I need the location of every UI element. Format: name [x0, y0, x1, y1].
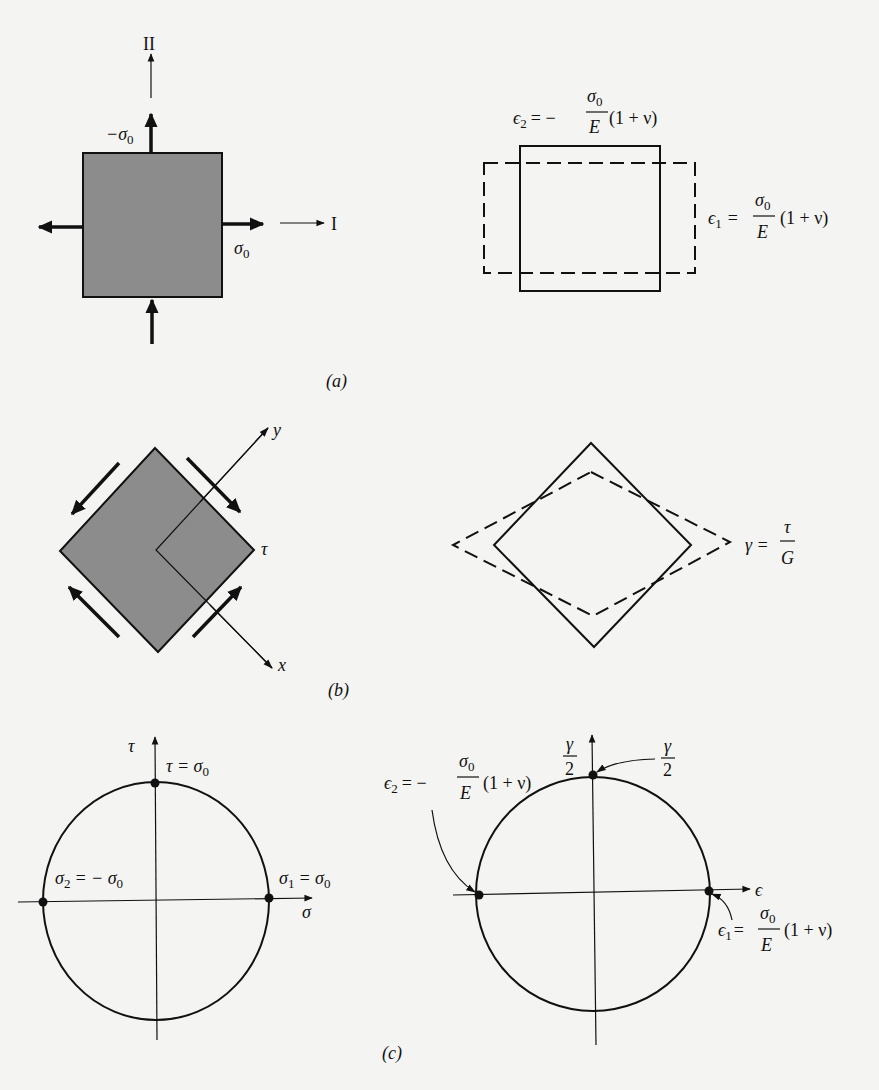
gamma-half-axis-num: γ [566, 734, 574, 754]
leader-epsilon-2 [432, 810, 475, 892]
sigma-axis-label: σ [302, 902, 312, 922]
point-sigma-1 [265, 894, 274, 903]
svg-text:(1 + ν): (1 + ν) [780, 208, 828, 229]
svg-text:(1 + ν): (1 + ν) [483, 773, 531, 794]
gamma-half-axis-den: 2 [565, 759, 574, 779]
axis-y-label: y [271, 420, 281, 440]
svg-text:σ0: σ0 [755, 190, 770, 213]
point-tau-max [151, 779, 160, 788]
strain-2-equation: ϵ2= − σ0 E (1 + ν) [513, 86, 657, 137]
deformed-rectangle-dashed [484, 163, 695, 273]
svg-text:ϵ2= −: ϵ2= − [384, 773, 427, 796]
stressed-element-square [83, 153, 222, 297]
epsilon-2-label: ϵ2= − σ0 E (1 + ν) [384, 751, 531, 803]
sigma-1-label: σ1= σ0 [279, 868, 330, 891]
shear-label: τ [261, 539, 268, 559]
svg-text:σ0: σ0 [587, 86, 602, 109]
stress-strain-figure: II I −σ0 σ0 ϵ2= − σ0 [0, 0, 879, 1090]
svg-text:(1 + ν): (1 + ν) [784, 920, 832, 941]
axis-x-label: x [277, 655, 286, 675]
tau-axis-label: τ [128, 736, 135, 756]
leader-gamma-half [597, 759, 655, 772]
panel-b: y x τ γ = τ G (b) [60, 420, 795, 701]
axis-y-arrow [200, 428, 268, 502]
axis-ii-label: II [143, 34, 155, 54]
mohr-stress-circle: τ σ τ = σ0 σ2= − σ0 σ1= σ0 [18, 736, 330, 1040]
axis-i-label: I [331, 214, 337, 234]
strain-1-equation: ϵ1= σ0 E (1 + ν) [708, 190, 828, 242]
axis-x-arrow [210, 605, 272, 668]
gamma-half-axis [592, 735, 596, 1045]
caption-a: (a) [326, 371, 347, 392]
svg-text:ϵ1=: ϵ1= [718, 920, 744, 943]
svg-text:ϵ2= −: ϵ2= − [513, 108, 556, 131]
mohr-strain-circle: γ 2 ϵ γ 2 ϵ2= − σ0 E (1 + ν) [384, 734, 832, 1045]
svg-text:(1 + ν): (1 + ν) [609, 108, 657, 129]
svg-text:σ0: σ0 [760, 903, 775, 926]
caption-b: (b) [328, 680, 349, 701]
panel-a: II I −σ0 σ0 ϵ2= − σ0 [39, 34, 828, 392]
point-epsilon-2 [475, 891, 484, 900]
svg-text:σ0: σ0 [459, 751, 474, 774]
panel-c: τ σ τ = σ0 σ2= − σ0 σ1= σ0 γ 2 [18, 734, 832, 1064]
svg-text:E: E [459, 783, 471, 803]
tau-max-label: τ = σ0 [166, 756, 209, 779]
point-gamma-half [589, 771, 598, 780]
stress-right-label: σ0 [234, 238, 249, 261]
caption-c: (c) [382, 1043, 402, 1064]
stress-top-label: −σ0 [106, 124, 134, 147]
point-sigma-2 [39, 898, 48, 907]
epsilon-1-label: ϵ1= σ0 E (1 + ν) [718, 903, 832, 955]
leader-epsilon-1 [712, 894, 732, 920]
epsilon-axis-label: ϵ [755, 880, 763, 900]
svg-text:γ =: γ = [745, 535, 769, 555]
svg-text:τ: τ [784, 517, 791, 537]
original-square-solid [520, 146, 660, 291]
gamma-half-point-den: 2 [663, 760, 672, 780]
svg-text:E: E [756, 222, 768, 242]
svg-text:G: G [781, 548, 794, 568]
svg-text:E: E [588, 117, 600, 137]
sigma-2-label: σ2= − σ0 [55, 868, 123, 891]
axis-ii: II [143, 34, 155, 98]
svg-text:ϵ1=: ϵ1= [708, 208, 738, 231]
axis-i: I [280, 214, 337, 234]
shear-strain-equation: γ = τ G [745, 517, 795, 568]
gamma-half-point-num: γ [664, 736, 672, 756]
shear-element-diamond [60, 448, 254, 652]
svg-text:E: E [760, 935, 772, 955]
